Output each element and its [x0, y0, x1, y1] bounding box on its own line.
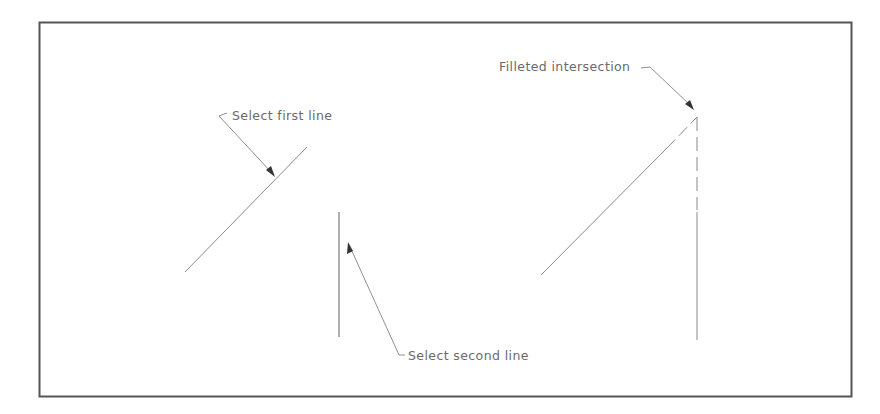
filleted-diagonal-solid: [541, 148, 667, 275]
filleted-diagonal-extension: [667, 117, 697, 148]
right-example: Filleted intersection: [499, 59, 697, 340]
select-first-line-label: Select first line: [232, 108, 332, 123]
drawing-frame: [40, 23, 852, 397]
select-second-line-label: Select second line: [408, 348, 529, 363]
fillet-diagram: Select first line Select second line Fil…: [0, 0, 880, 414]
second-line-leader: [347, 242, 405, 355]
first-line: [185, 147, 307, 272]
intersection-leader: [641, 67, 694, 110]
left-example: Select first line Select second line: [185, 108, 529, 363]
filleted-intersection-label: Filleted intersection: [499, 59, 630, 74]
